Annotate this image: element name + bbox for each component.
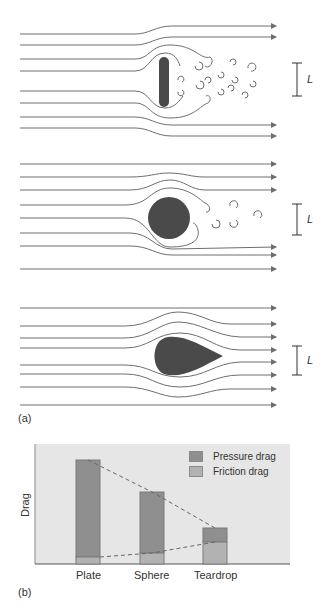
teardrop-flow xyxy=(20,308,276,405)
panel-b-label: (b) xyxy=(18,586,31,598)
pressure-swatch xyxy=(189,451,203,462)
sphere-wake-vortices xyxy=(212,201,262,228)
sphere-shape xyxy=(148,197,190,239)
legend-friction: Friction drag xyxy=(189,466,269,477)
friction-swatch xyxy=(189,466,203,477)
y-axis-label: Drag xyxy=(19,493,31,517)
dimension-marker-1 xyxy=(292,63,302,96)
wake-vortices xyxy=(178,59,256,98)
x-label-teardrop: Teardrop xyxy=(194,569,237,581)
dimension-marker-3 xyxy=(292,346,302,375)
bar-plate xyxy=(76,460,100,564)
sphere-flow xyxy=(20,164,276,269)
dimension-label-1: L xyxy=(307,73,313,85)
flat-plate-shape xyxy=(159,57,169,107)
dimension-label-2: L xyxy=(307,213,313,225)
x-label-plate: Plate xyxy=(76,569,101,581)
legend-pressure-label: Pressure drag xyxy=(213,451,276,462)
legend-friction-label: Friction drag xyxy=(213,466,269,477)
legend-pressure: Pressure drag xyxy=(189,451,276,462)
bar-teardrop xyxy=(203,528,227,564)
x-label-sphere: Sphere xyxy=(134,569,169,581)
flow-diagram xyxy=(0,0,327,607)
drag-chart xyxy=(35,444,290,564)
dimension-label-3: L xyxy=(307,354,313,366)
dimension-marker-2 xyxy=(292,204,302,235)
panel-a-label: (a) xyxy=(18,412,31,424)
